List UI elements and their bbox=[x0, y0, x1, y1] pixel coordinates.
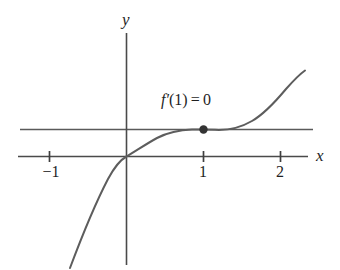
stationary-point-marker bbox=[199, 125, 207, 133]
annotation-value: 0 bbox=[203, 91, 211, 108]
figure-canvas bbox=[0, 0, 340, 270]
derivative-annotation: f′(1) = 0 bbox=[161, 92, 211, 108]
annotation-equals-sign: = bbox=[191, 91, 200, 108]
y-axis-label: y bbox=[122, 11, 130, 28]
x-axis-label: x bbox=[316, 147, 324, 164]
tick-label-neg-one: −1 bbox=[36, 164, 66, 180]
annotation-close-paren: ) bbox=[182, 91, 187, 108]
calculus-figure: y x −1 1 2 f′(1) = 0 bbox=[0, 0, 340, 270]
tick-label-two: 2 bbox=[267, 164, 293, 180]
tick-label-one: 1 bbox=[190, 164, 216, 180]
